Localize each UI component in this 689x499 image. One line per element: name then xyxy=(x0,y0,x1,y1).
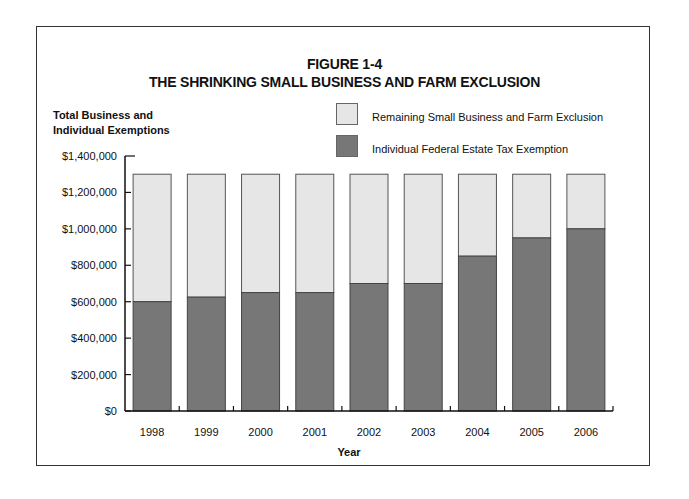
bar-segment-remaining-exclusion xyxy=(187,174,225,297)
x-tick-label: 2004 xyxy=(465,426,489,438)
bar-2005 xyxy=(513,174,551,411)
bar-segment-individual-exemption xyxy=(296,293,334,411)
bar-2004 xyxy=(458,174,496,411)
bar-1998 xyxy=(133,174,171,411)
bar-segment-remaining-exclusion xyxy=(513,174,551,238)
x-tick-label: 2003 xyxy=(411,426,435,438)
x-tick-label: 1998 xyxy=(140,426,164,438)
bar-segment-individual-exemption xyxy=(242,293,280,411)
bar-segment-individual-exemption xyxy=(133,302,171,411)
x-tick-label: 2000 xyxy=(248,426,272,438)
bar-segment-remaining-exclusion xyxy=(133,174,171,302)
bar-2000 xyxy=(242,174,280,411)
bar-segment-remaining-exclusion xyxy=(567,174,605,229)
bar-segment-individual-exemption xyxy=(458,256,496,411)
bar-segment-individual-exemption xyxy=(513,238,551,411)
x-tick-label: 1999 xyxy=(194,426,218,438)
bar-1999 xyxy=(187,174,225,411)
bar-segment-individual-exemption xyxy=(350,284,388,412)
plot-area: 199819992000200120022003200420052006$0$2… xyxy=(0,0,689,499)
bar-2001 xyxy=(296,174,334,411)
x-tick-label: 2005 xyxy=(519,426,543,438)
x-tick-label: 2002 xyxy=(357,426,381,438)
bar-2002 xyxy=(350,174,388,411)
bar-segment-remaining-exclusion xyxy=(458,174,496,256)
bar-segment-remaining-exclusion xyxy=(296,174,334,292)
bar-segment-individual-exemption xyxy=(404,284,442,412)
bar-segment-individual-exemption xyxy=(187,297,225,411)
y-tick-label: $1,000,000 xyxy=(62,223,117,235)
bar-segment-remaining-exclusion xyxy=(242,174,280,292)
bar-2003 xyxy=(404,174,442,411)
y-tick-label: $1,400,000 xyxy=(62,150,117,162)
x-axis-label: Year xyxy=(337,446,361,458)
y-tick-label: $1,200,000 xyxy=(62,186,117,198)
y-tick-label: $600,000 xyxy=(71,296,117,308)
bar-segment-individual-exemption xyxy=(567,229,605,411)
x-tick-label: 2006 xyxy=(574,426,598,438)
bar-segment-remaining-exclusion xyxy=(404,174,442,283)
bar-2006 xyxy=(567,174,605,411)
bar-segment-remaining-exclusion xyxy=(350,174,388,283)
y-tick-label: $800,000 xyxy=(71,259,117,271)
y-tick-label: $400,000 xyxy=(71,332,117,344)
y-tick-label: $200,000 xyxy=(71,369,117,381)
x-tick-label: 2001 xyxy=(303,426,327,438)
y-tick-label: $0 xyxy=(105,405,117,417)
